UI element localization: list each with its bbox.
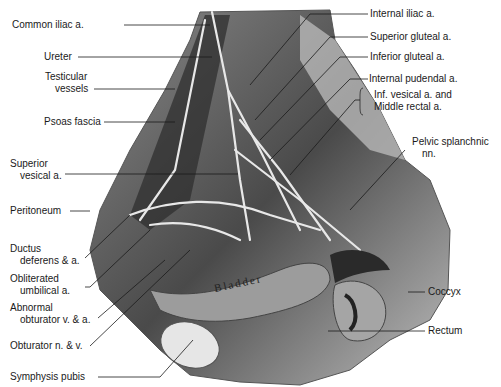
label-abnormal-obturator: Abnormal obturator v. & a. (10, 302, 90, 326)
label-testicular-vessels: Testicular vessels (45, 71, 88, 95)
label-rectum: Rectum (428, 325, 462, 337)
label-symphysis-pubis: Symphysis pubis (10, 371, 85, 383)
label-inferior-gluteal: Inferior gluteal a. (370, 51, 445, 63)
label-inf-vesical-middle-rectal: Inf. vesical a. and Middle rectal a. (374, 89, 452, 113)
label-coccyx: Coccyx (428, 286, 461, 298)
label-peritoneum: Peritoneum (10, 205, 61, 217)
label-superior-vesical: Superior vesical a. (10, 158, 62, 182)
label-pelvic-splanchnic: Pelvic splanchnic nn. (412, 136, 489, 160)
label-psoas-fascia: Psoas fascia (44, 116, 101, 128)
label-internal-pudendal: Internal pudendal a. (369, 73, 457, 85)
label-internal-iliac: Internal iliac a. (370, 8, 434, 20)
label-obliterated-umbilical: Obliterated umbilical a. (10, 273, 70, 297)
label-superior-gluteal: Superior gluteal a. (370, 31, 451, 43)
label-ductus-deferens: Ductus deferens & a. (10, 243, 79, 267)
anatomy-figure: Bladder (0, 0, 501, 387)
label-ureter: Ureter (44, 51, 72, 63)
label-common-iliac: Common iliac a. (12, 19, 84, 31)
label-obturator-nerve: Obturator n. & v. (10, 340, 83, 352)
